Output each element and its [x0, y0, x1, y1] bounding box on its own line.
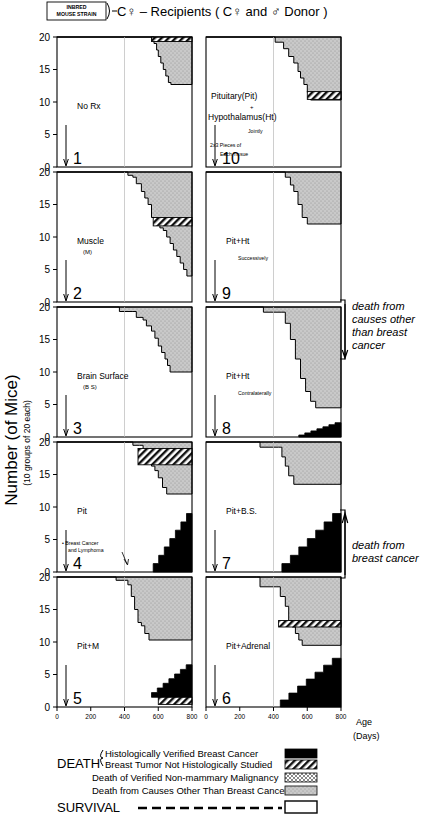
breast-tumor-not-studied-band	[138, 449, 192, 465]
y-tick-label: 5	[44, 129, 50, 140]
panel-label: Pit+M	[77, 641, 99, 651]
panel-arrow-icon	[64, 395, 69, 436]
panel-label-2: Hypothalamus(Ht)	[208, 112, 277, 122]
panel-number: 3	[73, 420, 82, 437]
panel-label: No Rx	[77, 101, 101, 111]
figure-header: INBRED MOUSE STRAIN C♀ – Recipients ( C♀…	[47, 2, 328, 20]
x-tick-label: 800	[336, 713, 347, 720]
note-arrow-icon	[122, 552, 129, 565]
y-tick-label: 15	[39, 64, 51, 75]
panel-9: 9Pit+HtSuccessively	[206, 172, 341, 302]
annot-line-3: cancer	[352, 339, 386, 351]
annot2-line-1: breast cancer	[352, 552, 420, 564]
y-tick-label: 15	[39, 334, 51, 345]
panel-number: 6	[222, 690, 231, 707]
y-tick-label: 5	[44, 669, 50, 680]
panel-grid: 201510501No Rx201510502Muscle(M)20151050…	[39, 32, 347, 720]
y-tick-label: 10	[39, 367, 51, 378]
panel-arrow-icon	[64, 665, 69, 706]
y-axis-label: Number (of Mice)	[2, 374, 21, 505]
panel-8: 8Pit+HtContralaterally	[206, 307, 341, 437]
panel-sublabel-2: 2x3 Pieces of	[210, 142, 242, 148]
breast-tumor-not-studied-band	[152, 37, 193, 42]
breast-cancer-verified-area	[153, 514, 192, 573]
x-axis-label: Age	[356, 717, 372, 727]
panel-label: Pit+Ht	[226, 371, 250, 381]
x-tick-label: 200	[234, 713, 245, 720]
panel-6: 02004006008006Pit+Adrenal	[204, 577, 347, 720]
panel-arrow-icon	[213, 665, 218, 706]
panel-label: Brain Surface	[77, 371, 129, 381]
y-tick-label: 20	[39, 32, 51, 43]
x-tick-label: 0	[204, 713, 208, 720]
panel-label: Pit+Adrenal	[226, 641, 270, 651]
panel-label: Pit+B.S.	[226, 506, 257, 516]
panel-sublabel: Contralaterally	[238, 390, 272, 396]
x-axis-label-group: Age (Days)	[353, 717, 380, 741]
panel-number: 2	[73, 285, 82, 302]
down-arrow-icon	[342, 304, 347, 358]
x-tick-label: 400	[268, 713, 279, 720]
legend-item-3-label: Death from Causes Other Than Breast Canc…	[92, 785, 288, 796]
y-tick-label: 20	[39, 167, 51, 178]
legend-item-0-label: Histologically Verified Breast Cancer	[105, 748, 258, 759]
panel-5: 2015105002004006008005Pit+M	[39, 572, 198, 720]
annotation-death-breast-cancer: death from breast cancer	[340, 510, 420, 578]
legend-swatch-hatch-diagonal	[285, 760, 317, 769]
y-tick-label: 10	[39, 637, 51, 648]
figure-svg: INBRED MOUSE STRAIN C♀ – Recipients ( C♀…	[0, 0, 433, 826]
y-tick-label: 10	[39, 97, 51, 108]
panel-number: 4	[73, 555, 82, 572]
panel-number: 8	[222, 420, 231, 437]
panel-arrow-icon	[213, 530, 218, 571]
x-tick-label: 400	[119, 713, 130, 720]
strain-box-line2: MOUSE STRAIN	[57, 11, 97, 17]
panel-note-line-2: and Lymphoma	[68, 547, 104, 553]
panel-4: 201510504Pit• Breast Cancerand Lymphoma	[39, 437, 192, 578]
y-tick-label: 20	[39, 302, 51, 313]
panel-1: 201510501No Rx	[39, 32, 192, 173]
y-tick-label: 15	[39, 604, 51, 615]
panel-label: Pit	[77, 506, 88, 516]
annot2-line-0: death from	[352, 539, 405, 551]
annotation-death-other-causes: death from causes other than breast canc…	[340, 300, 416, 359]
breast-cancer-verified-area	[280, 658, 341, 707]
x-tick-label: 600	[302, 713, 313, 720]
x-tick-label: 800	[187, 713, 198, 720]
panel-label-plus: +	[250, 104, 254, 110]
y-tick-label: 5	[44, 534, 50, 545]
panel-sublabel: Jointly	[248, 128, 263, 134]
legend-item-1-label: Breast Tumor Not Histologically Studied	[105, 759, 272, 770]
panel-number: 7	[222, 555, 231, 572]
panel-arrow-icon	[213, 395, 218, 436]
breast-cancer-verified-area	[152, 665, 193, 698]
x-tick-label: 200	[85, 713, 96, 720]
y-tick-label: 20	[39, 437, 51, 448]
panel-7: 7Pit+B.S.	[206, 442, 341, 572]
y-tick-label: 5	[44, 399, 50, 410]
panel-10: 10Pituitary(Pit)+Hypothalamus(Ht)Jointly…	[206, 37, 341, 167]
panel-sublabel: Successively	[238, 255, 268, 261]
legend-swatch-white-open	[285, 801, 317, 813]
legend-swatch-fine-crosshatch	[285, 773, 317, 782]
y-axis-sublabel: (10 groups of 20 each)	[22, 400, 32, 486]
panel-note-line-1: • Breast Cancer	[62, 540, 99, 546]
panel-3: 201510503Brain Surface(B S)	[39, 302, 192, 443]
annot-line-2: than breast	[352, 326, 408, 338]
panel-sublabel: (M)	[83, 249, 92, 255]
panel-sublabel: (B S)	[83, 384, 97, 390]
legend-death-label: DEATH	[57, 756, 100, 771]
y-tick-label: 0	[44, 702, 50, 713]
x-tick-label: 600	[153, 713, 164, 720]
figure-title: C♀ – Recipients ( C♀ and ♂ Donor )	[117, 4, 328, 19]
x-axis-sublabel: (Days)	[353, 731, 380, 741]
y-tick-label: 10	[39, 502, 51, 513]
y-tick-label: 15	[39, 199, 51, 210]
panel-arrow-icon	[64, 125, 69, 166]
panel-label: Pituitary(Pit)	[211, 91, 257, 101]
y-tick-label: 15	[39, 469, 51, 480]
figure-root: INBRED MOUSE STRAIN C♀ – Recipients ( C♀…	[0, 0, 433, 826]
strain-box-line1: INBRED	[67, 4, 87, 10]
up-arrow-icon	[342, 513, 347, 575]
y-tick-label: 10	[39, 232, 51, 243]
